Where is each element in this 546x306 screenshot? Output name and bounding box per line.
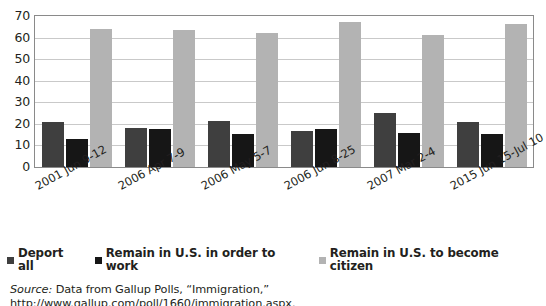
y-tick-label: 50: [0, 53, 30, 65]
y-tick-label: 40: [0, 75, 30, 87]
legend-label: Remain in U.S. in order to work: [106, 247, 305, 273]
bar-group: [118, 16, 201, 167]
bar[interactable]: [42, 122, 64, 167]
source-note: Source: Data from Gallup Polls, “Immigra…: [10, 283, 540, 306]
legend-entry[interactable]: Remain in U.S. to become citizen: [319, 247, 539, 273]
bar-group: [201, 16, 284, 167]
bar-group: [35, 16, 118, 167]
bar[interactable]: [457, 122, 479, 167]
legend-label: Deport all: [18, 247, 81, 273]
y-tick-label: 10: [0, 139, 30, 151]
bar-group: [367, 16, 450, 167]
source-text: Data from Gallup Polls, “Immigration,” h…: [10, 283, 295, 306]
source-label: Source:: [10, 283, 52, 296]
plot-area: 010203040506070: [0, 4, 546, 174]
legend-swatch-icon: [95, 257, 102, 264]
legend-label: Remain in U.S. to become citizen: [330, 247, 539, 273]
y-axis: 010203040506070: [0, 4, 30, 174]
bar-group: [284, 16, 367, 167]
legend-entry[interactable]: Deport all: [7, 247, 81, 273]
legend-swatch-icon: [319, 257, 326, 264]
bar[interactable]: [291, 131, 313, 167]
bar[interactable]: [125, 128, 147, 167]
chart-legend: Deport allRemain in U.S. in order to wor…: [0, 250, 546, 270]
y-tick-label: 20: [0, 118, 30, 130]
legend-swatch-icon: [7, 257, 14, 264]
y-tick-label: 70: [0, 10, 30, 22]
x-axis: 2001 Jun 9-122006 Apr 7-92006 May 5-7200…: [0, 172, 546, 248]
y-tick-label: 30: [0, 96, 30, 108]
bars-layer: [35, 16, 533, 167]
legend-entry[interactable]: Remain in U.S. in order to work: [95, 247, 305, 273]
bar[interactable]: [374, 113, 396, 167]
y-tick-label: 60: [0, 32, 30, 44]
bar-chart-figure: 010203040506070 2001 Jun 9-122006 Apr 7-…: [0, 0, 546, 306]
bar[interactable]: [208, 121, 230, 167]
